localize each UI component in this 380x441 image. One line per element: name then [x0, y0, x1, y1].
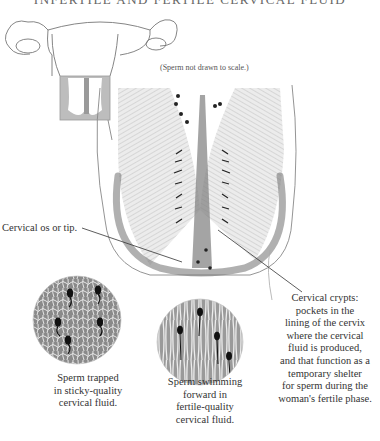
swimming-line: cervical fluid. — [155, 414, 255, 427]
uterus-outline — [5, 20, 177, 76]
crypts-line: temporary shelter — [265, 368, 380, 381]
crypts-line: pockets in the — [265, 305, 380, 318]
crypts-line: Cervical crypts: — [265, 292, 380, 305]
infertile-fluid-circle — [33, 276, 121, 364]
crypts-line: where the cervical — [265, 330, 380, 343]
crypts-line: for sperm during the — [265, 380, 380, 393]
crypts-line: and that function as a — [265, 355, 380, 368]
trapped-line: cervical fluid. — [38, 397, 138, 410]
crypts-line: fluid is produced, — [265, 342, 380, 355]
trapped-line: in sticky-quality — [38, 385, 138, 398]
fertile-fluid-circle — [157, 299, 243, 385]
cervical-crypts-label: Cervical crypts: pockets in the lining o… — [265, 292, 380, 405]
crypts-line: lining of the cervix — [265, 317, 380, 330]
scale-note: (Sperm not drawn to scale.) — [160, 63, 249, 72]
swimming-line: Sperm swimming — [155, 376, 255, 389]
cervix-cross-section — [97, 85, 296, 300]
sperm-swimming-label: Sperm swimming forward in fertile-qualit… — [155, 376, 255, 426]
sperm-trapped-label: Sperm trapped in sticky-quality cervical… — [38, 372, 138, 410]
trapped-line: Sperm trapped — [38, 372, 138, 385]
cervical-os-label: Cervical os or tip. — [2, 222, 77, 235]
crypts-line: woman's fertile phase. — [265, 393, 380, 406]
swimming-line: forward in — [155, 389, 255, 402]
cervix-inset — [60, 76, 112, 140]
swimming-line: fertile-quality — [155, 401, 255, 414]
